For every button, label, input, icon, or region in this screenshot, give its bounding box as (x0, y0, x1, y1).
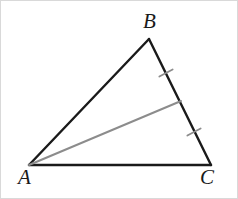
segment-ab (29, 39, 149, 165)
vertex-label-b: B (143, 11, 156, 32)
vertex-label-c: C (200, 167, 214, 188)
median-am (29, 101, 181, 165)
geometry-figure: A B C (0, 0, 238, 199)
vertex-label-a: A (18, 167, 31, 188)
